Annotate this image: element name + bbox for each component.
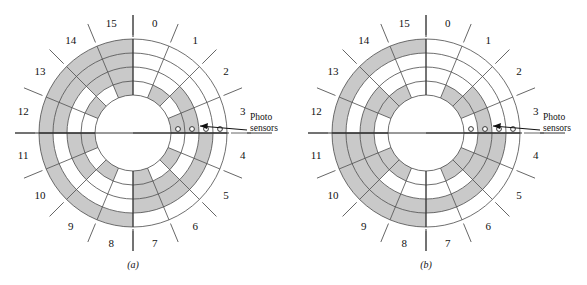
sector-label-13: 13 — [34, 65, 46, 77]
photo-sensors-label-line1: Photo — [250, 112, 272, 122]
sector-tick — [317, 88, 335, 96]
sector-tick — [50, 202, 64, 216]
sector-label-5: 5 — [516, 189, 522, 201]
sector-label-10: 10 — [34, 189, 46, 201]
sector-tick — [24, 171, 42, 179]
sector-tick — [517, 88, 535, 96]
sector-tick — [464, 224, 472, 242]
sector-tick — [50, 50, 64, 64]
sector-tick — [343, 202, 357, 216]
sector-label-14: 14 — [358, 34, 370, 46]
sector-tick — [495, 50, 509, 64]
sector-label-9: 9 — [68, 220, 74, 232]
sector-tick — [517, 171, 535, 179]
sector-tick — [381, 224, 389, 242]
sector-label-4: 4 — [240, 149, 246, 161]
sector-tick — [381, 24, 389, 42]
sector-label-6: 6 — [485, 220, 491, 232]
sector-label-4: 4 — [533, 149, 539, 161]
sector-label-11: 11 — [18, 149, 29, 161]
sector-label-15: 15 — [399, 17, 411, 29]
sector-tick — [224, 171, 242, 179]
encoder-disk-figure: 0123456789101112131415 Photo sensors (a)… — [0, 0, 587, 285]
sector-tick — [202, 50, 216, 64]
encoder-disk-panel-b: 0123456789101112131415 Photo sensors (b) — [293, 0, 586, 285]
sector-label-9: 9 — [361, 220, 367, 232]
sector-tick — [24, 88, 42, 96]
panel-b-caption: (b) — [420, 259, 432, 271]
sector-tick — [317, 171, 335, 179]
sector-label-1: 1 — [192, 34, 198, 46]
sector-label-10: 10 — [327, 189, 339, 201]
sector-label-0: 0 — [445, 17, 451, 29]
sector-label-1: 1 — [485, 34, 491, 46]
disk-b-svg: 0123456789101112131415 Photo sensors (b) — [293, 0, 586, 285]
photo-sensors-label-line2: sensors — [543, 123, 571, 133]
encoder-disk-panel-a: 0123456789101112131415 Photo sensors (a) — [0, 0, 293, 285]
sector-label-14: 14 — [65, 34, 77, 46]
sector-label-2: 2 — [223, 65, 229, 77]
sector-tick — [202, 202, 216, 216]
sector-label-15: 15 — [106, 17, 118, 29]
sector-label-6: 6 — [192, 220, 198, 232]
sector-tick — [171, 224, 179, 242]
photo-sensor-1 — [176, 127, 181, 132]
photo-sensor-2 — [190, 127, 195, 132]
sector-tick — [171, 24, 179, 42]
photo-sensor-2 — [483, 127, 488, 132]
sector-label-5: 5 — [223, 189, 229, 201]
sector-label-3: 3 — [240, 105, 246, 117]
sector-tick — [495, 202, 509, 216]
sector-label-11: 11 — [311, 149, 322, 161]
panel-a-caption: (a) — [127, 259, 139, 271]
sector-label-13: 13 — [327, 65, 339, 77]
sector-label-8: 8 — [108, 237, 114, 249]
sector-tick — [88, 224, 96, 242]
sector-label-12: 12 — [18, 105, 29, 117]
sector-tick — [224, 88, 242, 96]
sector-label-7: 7 — [445, 237, 451, 249]
sector-tick — [464, 24, 472, 42]
photo-sensors-label-line2: sensors — [250, 123, 278, 133]
sector-label-3: 3 — [533, 105, 539, 117]
disk-a-svg: 0123456789101112131415 Photo sensors (a) — [0, 0, 293, 285]
sector-tick — [343, 50, 357, 64]
sector-tick — [88, 24, 96, 42]
sector-label-12: 12 — [311, 105, 322, 117]
sector-label-7: 7 — [152, 237, 158, 249]
sector-label-2: 2 — [516, 65, 522, 77]
sector-label-8: 8 — [401, 237, 407, 249]
sector-label-0: 0 — [152, 17, 158, 29]
photo-sensors-label-line1: Photo — [543, 112, 565, 122]
photo-sensor-1 — [469, 127, 474, 132]
